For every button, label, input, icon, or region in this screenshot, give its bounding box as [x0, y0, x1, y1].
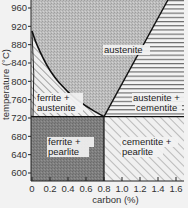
y-tick-label: 600 — [11, 167, 27, 178]
region-label-text: pearlite — [122, 146, 153, 157]
region-label-text: austenite — [104, 44, 143, 55]
x-tick-label: 0.8 — [97, 183, 110, 194]
y-axis-title: temperature (°C) — [0, 49, 11, 120]
x-tick-label: 0.6 — [79, 183, 92, 194]
region-label-text: cementite — [136, 102, 177, 113]
x-tick-label: 1.6 — [169, 183, 182, 194]
region-label-austenite-cementite: austenite +cementite — [132, 92, 188, 113]
x-tick-label: 1.2 — [133, 183, 146, 194]
x-tick-label: 0.2 — [43, 183, 56, 194]
y-tick-label: 880 — [11, 39, 27, 50]
y-tick-label: 760 — [11, 94, 27, 105]
region-label-ferrite-austenite: ferrite +austenite — [36, 92, 83, 113]
x-tick-label: 1.4 — [151, 183, 164, 194]
x-axis-title: carbon (%) — [92, 194, 138, 205]
y-tick-label: 640 — [11, 149, 27, 160]
iron-carbon-phase-diagram: 96092088084080076072068064060000.20.40.6… — [0, 0, 188, 208]
y-tick-label: 680 — [11, 131, 27, 142]
y-tick-label: 920 — [11, 21, 27, 32]
y-tick-label: 840 — [11, 57, 27, 68]
y-tick-label: 800 — [11, 76, 27, 87]
region-label-text: austenite — [37, 102, 76, 113]
x-tick-label: 1.0 — [115, 183, 128, 194]
region-label-austenite: austenite — [103, 44, 150, 55]
x-tick-label: 0 — [29, 183, 34, 194]
y-tick-label: 960 — [11, 2, 27, 13]
region-label-text: pearlite — [48, 146, 79, 157]
x-tick-label: 0.4 — [61, 183, 74, 194]
y-tick-label: 720 — [11, 112, 27, 123]
region-label-ferrite-pearlite: ferrite +pearlite — [47, 136, 94, 157]
